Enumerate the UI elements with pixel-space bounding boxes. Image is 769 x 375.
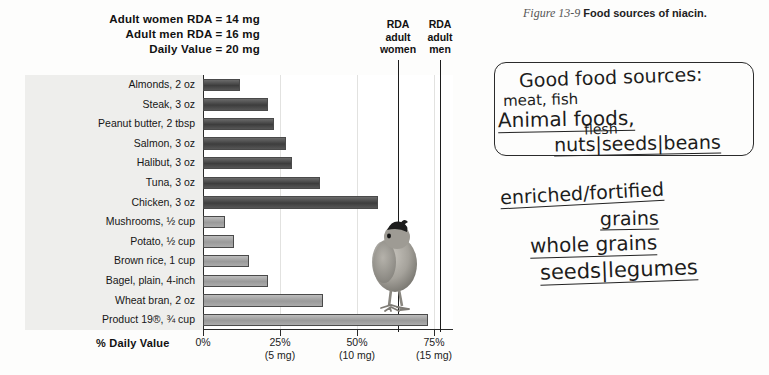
daily-value-text: Daily Value = 20 mg [10, 42, 260, 57]
bar-row-label: Peanut butter, 2 tbsp [25, 114, 195, 134]
tick-label-0-pct: 0% [173, 336, 233, 349]
tick-label-75-pct: 75% [404, 336, 464, 349]
bar-row-label: Bagel, plain, 4-inch [25, 271, 195, 291]
bar-plant [203, 255, 249, 267]
bar-row-label: Chicken, 3 oz [25, 193, 195, 213]
figure-page: Adult women RDA = 14 mg Adult men RDA = … [0, 0, 769, 375]
bar-plant [203, 216, 225, 228]
bar-row: Steak, 3 oz [25, 95, 453, 115]
bar-animal [203, 137, 286, 149]
bar-animal [203, 196, 378, 208]
bar-row: Tuna, 3 oz [25, 173, 453, 193]
x-axis-labels: 0% 25% (5 mg) 50% (10 mg) 75% (15 mg) [150, 336, 470, 368]
hw-grains: grains [600, 206, 659, 230]
bar-animal [203, 157, 292, 169]
tick-label-75-mg: (15 mg) [404, 349, 464, 362]
hw-enriched-fortified: enriched/fortified [500, 178, 665, 210]
bar-row-label: Wheat bran, 2 oz [25, 291, 195, 311]
bar-plant [203, 235, 234, 247]
bar-animal [203, 98, 268, 110]
rda-men-l3: men [411, 43, 469, 56]
hw-whole-grains: whole grains [530, 230, 658, 258]
chick-photo [367, 212, 423, 318]
bar-plant [203, 275, 268, 287]
rda-men-caption: RDA adult men [411, 18, 469, 56]
bar-row-label: Tuna, 3 oz [25, 173, 195, 193]
bar-row: Halibut, 3 oz [25, 153, 453, 173]
hw-seeds-legumes: seeds|legumes [540, 255, 699, 285]
bar-row-label: Brown rice, 1 cup [25, 251, 195, 271]
figure-caption-text: Food sources of niacin. [583, 7, 706, 19]
hw-nuts-seeds-beans: nuts|seeds|beans [554, 131, 721, 157]
bar-row-label: Salmon, 3 oz [25, 134, 195, 154]
bar-row: Peanut butter, 2 tbsp [25, 114, 453, 134]
bar-animal [203, 118, 274, 130]
bar-row: Almonds, 2 oz [25, 75, 453, 95]
bar-row-label: Halibut, 3 oz [25, 153, 195, 173]
bar-plant [203, 294, 323, 306]
tick-label-50-pct: 50% [327, 336, 387, 349]
bar-row-label: Product 19®, ¾ cup [25, 310, 195, 330]
tick-label-50-mg: (10 mg) [327, 349, 387, 362]
bar-row: Salmon, 3 oz [25, 134, 453, 154]
bar-animal [203, 177, 320, 189]
rda-men-l2: adult [411, 31, 469, 44]
rda-women-text: Adult women RDA = 14 mg [10, 12, 260, 27]
bar-row-label: Mushrooms, ½ cup [25, 212, 195, 232]
bar-row-label: Potato, ½ cup [25, 232, 195, 252]
rda-men-l1: RDA [411, 18, 469, 31]
figure-caption: Figure 13-9 Food sources of niacin. [523, 6, 707, 21]
bar-row-label: Steak, 3 oz [25, 95, 195, 115]
rda-men-text: Adult men RDA = 16 mg [10, 27, 260, 42]
bar-animal [203, 79, 240, 91]
tick-label-25-pct: 25% [250, 336, 310, 349]
bar-row-label: Almonds, 2 oz [25, 75, 195, 95]
tick-label-25-mg: (5 mg) [250, 349, 310, 362]
rda-header-block: Adult women RDA = 14 mg Adult men RDA = … [10, 12, 260, 57]
figure-number: Figure 13-9 [523, 6, 580, 20]
bar-row: Chicken, 3 oz [25, 193, 453, 213]
